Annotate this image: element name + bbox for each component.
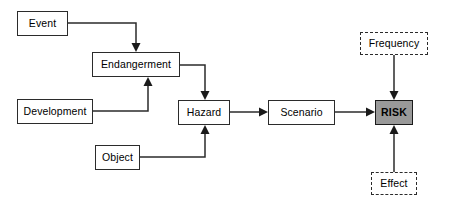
node-scenario[interactable]: Scenario: [268, 100, 335, 125]
node-effect[interactable]: Effect: [371, 172, 417, 195]
node-hazard-label: Hazard: [187, 107, 221, 118]
node-effect-label: Effect: [380, 178, 407, 189]
edge-event-to-endangerment: [68, 23, 136, 49]
node-development-label: Development: [24, 106, 87, 117]
arrowhead-into-risk-bottom: [390, 125, 399, 134]
node-frequency[interactable]: Frequency: [360, 32, 428, 55]
risk-flow-diagram: Event Endangerment Development Object Ha…: [0, 0, 451, 206]
node-development[interactable]: Development: [17, 99, 93, 124]
edge-development-to-endangerment: [93, 80, 148, 111]
arrowhead-into-hazard-top: [201, 91, 210, 100]
node-hazard[interactable]: Hazard: [178, 100, 230, 125]
edge-object-to-hazard: [140, 128, 205, 157]
arrowhead-into-risk-top: [390, 91, 399, 100]
node-endangerment-label: Endangerment: [101, 59, 171, 70]
node-event-label: Event: [29, 18, 56, 29]
node-scenario-label: Scenario: [280, 107, 322, 118]
node-endangerment[interactable]: Endangerment: [92, 52, 180, 77]
node-risk-label: RISK: [381, 107, 407, 118]
arrowhead-into-hazard-bottom: [201, 125, 210, 134]
arrowhead-into-scenario-left: [259, 108, 268, 117]
node-risk[interactable]: RISK: [375, 100, 413, 125]
node-frequency-label: Frequency: [369, 38, 420, 49]
arrowhead-into-endangerment-bottom: [144, 77, 153, 86]
node-object[interactable]: Object: [95, 145, 140, 170]
node-object-label: Object: [102, 152, 133, 163]
node-event[interactable]: Event: [17, 11, 68, 36]
arrowhead-into-risk-left: [366, 108, 375, 117]
arrowhead-into-endangerment-top: [132, 43, 141, 52]
